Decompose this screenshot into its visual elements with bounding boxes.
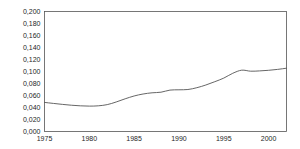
y-tick-label: 0,180 — [23, 20, 41, 27]
x-tick-label: 1985 — [126, 135, 142, 142]
x-tick-label: 1980 — [82, 135, 98, 142]
x-tick-label: 2000 — [261, 135, 277, 142]
y-tick-label: 0,080 — [23, 80, 41, 87]
y-tick-label: 0,120 — [23, 56, 41, 63]
y-tick-label: 0,200 — [23, 8, 41, 15]
y-tick-label: 0,020 — [23, 116, 41, 123]
chart-background — [0, 0, 300, 149]
x-tick-label: 1975 — [37, 135, 53, 142]
x-tick-label: 1990 — [171, 135, 187, 142]
y-tick-label: 0,100 — [23, 68, 41, 75]
y-tick-label: 0,040 — [23, 104, 41, 111]
y-tick-label: 0,160 — [23, 32, 41, 39]
x-tick-label: 1995 — [216, 135, 232, 142]
chart-container: 0,0000,0200,0400,0600,0800,1000,1200,140… — [0, 0, 300, 149]
y-tick-label: 0,060 — [23, 92, 41, 99]
y-tick-label: 0,140 — [23, 44, 41, 51]
line-chart: 0,0000,0200,0400,0600,0800,1000,1200,140… — [0, 0, 300, 149]
